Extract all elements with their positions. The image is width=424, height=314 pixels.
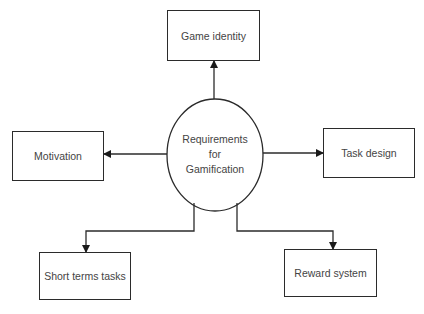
center-label-line-1: Requirements: [182, 132, 247, 147]
edge-to-short-terms-tasks: [86, 203, 194, 252]
node-reward-system: Reward system: [284, 249, 377, 297]
node-short-terms-tasks: Short terms tasks: [39, 252, 131, 300]
node-game-identity-label: Game identity: [181, 30, 246, 42]
node-game-identity: Game identity: [167, 10, 260, 61]
node-task-design-label: Task design: [341, 147, 396, 159]
center-label-line-3: Gamification: [186, 162, 244, 177]
center-node-label: Requirements for Gamification: [167, 132, 263, 177]
node-reward-system-label: Reward system: [294, 267, 366, 279]
node-short-terms-tasks-label: Short terms tasks: [44, 270, 126, 282]
center-label-line-2: for: [209, 147, 221, 162]
node-motivation-label: Motivation: [34, 150, 82, 162]
node-task-design: Task design: [323, 128, 415, 178]
edge-to-reward-system: [237, 203, 333, 249]
node-motivation: Motivation: [12, 131, 104, 181]
